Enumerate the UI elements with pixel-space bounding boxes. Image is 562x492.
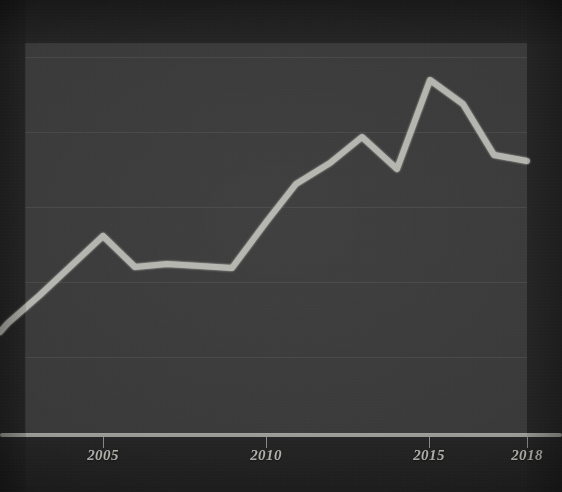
x-tick-label-2005: 2005	[87, 447, 119, 464]
line-series-svg	[0, 0, 562, 492]
x-tick-label-2010: 2010	[250, 447, 282, 464]
x-tick-label-2018: 2018	[511, 447, 543, 464]
x-axis-line	[0, 433, 562, 437]
chart-screenshot: 2005 2010 2015 2018	[0, 0, 562, 492]
x-tick-label-2015: 2015	[413, 447, 445, 464]
data-line-series	[0, 80, 527, 332]
